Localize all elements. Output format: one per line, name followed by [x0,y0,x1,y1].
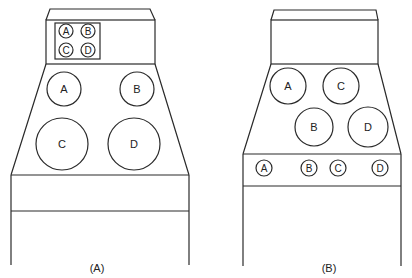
figure-b-circle-d: D [348,107,388,147]
figure-a-circle-b: B [120,72,154,106]
figure-b-band-circle-c: C [330,160,346,176]
figure-a-legend-circle-a: A [59,24,73,38]
svg-text:D: D [130,138,138,150]
figure-b: A C B D A B C D [243,10,401,274]
svg-text:A: A [63,26,70,37]
figure-a-legend-circle-d: D [81,43,95,57]
figure-a-hopper [11,64,189,175]
figure-a-circle-d: D [108,118,160,170]
figure-a-legend-circle-b: B [81,24,95,38]
figure-b-band-circle-a: A [256,160,272,176]
svg-text:C: C [337,80,345,92]
figure-a-circle-c: C [36,118,88,170]
figure-b-upper-box [271,20,378,64]
svg-text:A: A [284,80,292,92]
svg-text:A: A [261,163,268,174]
svg-text:D: D [84,45,91,56]
svg-text:C: C [58,138,66,150]
svg-text:D: D [364,121,372,133]
svg-text:C: C [62,45,69,56]
figure-b-top-cap [271,10,378,20]
figure-a: A B C D A B C D [11,9,189,274]
figure-b-circle-a: A [270,68,306,104]
figure-b-band-circle-d: D [372,160,388,176]
diagram-canvas: A B C D A B C D [0,0,412,278]
figure-b-circle-c: C [323,68,359,104]
svg-text:C: C [334,163,341,174]
svg-text:B: B [310,121,317,133]
svg-text:B: B [133,83,140,95]
figure-a-top-cap [46,9,155,20]
figure-a-caption: (A) [90,262,105,274]
figure-b-caption: (B) [322,262,337,274]
svg-text:B: B [306,163,313,174]
figure-a-circle-a: A [47,72,81,106]
figure-b-band-circle-b: B [301,160,317,176]
figure-b-circle-b: B [295,108,333,146]
svg-text:B: B [85,26,92,37]
figure-a-legend-circle-c: C [59,43,73,57]
svg-text:D: D [376,163,383,174]
svg-text:A: A [60,83,68,95]
